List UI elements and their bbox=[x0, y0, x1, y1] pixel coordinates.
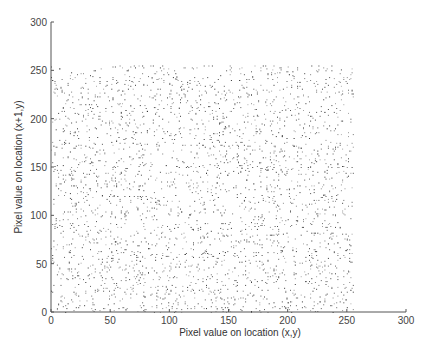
x-tick-label: 0 bbox=[48, 315, 54, 326]
x-tick-label: 200 bbox=[279, 315, 296, 326]
x-tick-label: 50 bbox=[105, 315, 117, 326]
y-tick-label: 50 bbox=[36, 259, 48, 270]
x-tick-label: 100 bbox=[161, 315, 178, 326]
y-tick-label: 0 bbox=[41, 307, 47, 318]
y-tick-label: 150 bbox=[30, 162, 47, 173]
y-tick-label: 100 bbox=[30, 210, 47, 221]
chart-axes: 050100150200250300 050100150200250300 bbox=[30, 17, 414, 326]
x-tick-label: 150 bbox=[220, 315, 237, 326]
y-axis-label: Pixel value on location (x+1,y) bbox=[13, 100, 24, 233]
y-tick-label: 200 bbox=[30, 114, 47, 125]
x-tick-label: 250 bbox=[338, 315, 355, 326]
scatter-points bbox=[51, 66, 354, 314]
x-tick-label: 300 bbox=[398, 315, 415, 326]
scatter-chart: 050100150200250300 050100150200250300 Pi… bbox=[0, 0, 430, 350]
y-tick-label: 300 bbox=[30, 17, 47, 28]
y-tick-label: 250 bbox=[30, 65, 47, 76]
x-axis-label: Pixel value on location (x,y) bbox=[179, 327, 301, 338]
y-axis-ticks: 050100150200250300 bbox=[30, 17, 54, 318]
